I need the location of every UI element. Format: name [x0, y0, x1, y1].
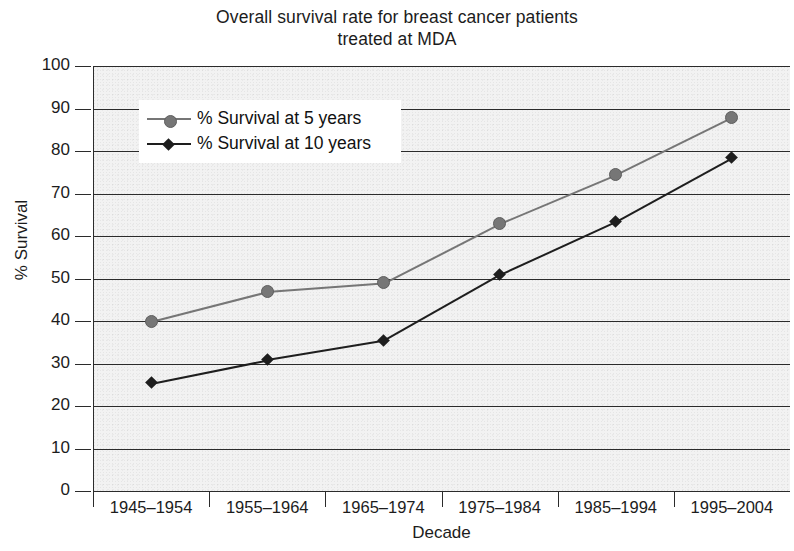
y-axis-tick-label: 0	[12, 483, 70, 497]
legend-swatch-5-year	[147, 112, 191, 126]
series-line-segment	[383, 223, 500, 284]
data-point-circle-marker	[609, 168, 622, 181]
y-axis-tick	[75, 194, 91, 195]
legend-label-5-year: % Survival at 5 years	[197, 108, 361, 129]
y-axis-tick-label: 30	[12, 356, 70, 370]
gridline	[93, 321, 790, 322]
gridline	[93, 406, 790, 407]
data-point-circle-marker	[725, 111, 738, 124]
y-axis-tick-label: 20	[12, 398, 70, 412]
legend-item-10-year: % Survival at 10 years	[147, 131, 393, 156]
y-axis-tick	[75, 449, 91, 450]
x-axis-category-label: 1975–1984	[442, 498, 558, 517]
y-axis-tick	[75, 109, 91, 110]
gridline	[93, 194, 790, 195]
x-axis-category-label: 1985–1994	[558, 498, 674, 517]
diamond-marker-icon	[162, 138, 175, 151]
legend-label-10-year: % Survival at 10 years	[197, 133, 371, 154]
x-axis-category-label: 1995–2004	[674, 498, 790, 517]
gridline	[93, 364, 790, 365]
y-axis-tick	[75, 151, 91, 152]
gridline	[93, 449, 790, 450]
gridline	[93, 66, 790, 67]
legend-swatch-10-year	[147, 137, 191, 151]
x-axis-category-label: 1955–1964	[209, 498, 325, 517]
y-axis-tick-label: 70	[12, 186, 70, 200]
chart-legend: % Survival at 5 years % Survival at 10 y…	[139, 100, 401, 163]
data-point-circle-marker	[493, 217, 506, 230]
x-axis-label: Decade	[93, 523, 790, 543]
legend-item-5-year: % Survival at 5 years	[147, 106, 393, 131]
chart-title: Overall survival rate for breast cancer …	[0, 6, 794, 50]
y-axis-tick-label: 10	[12, 441, 70, 455]
x-axis-category-label: 1965–1974	[325, 498, 441, 517]
x-axis-category-label: 1945–1954	[93, 498, 209, 517]
y-axis-tick-label: 40	[12, 313, 70, 327]
y-axis-tick-label: 80	[12, 143, 70, 157]
chart-figure: Overall survival rate for breast cancer …	[0, 0, 794, 551]
series-line-segment	[267, 340, 383, 361]
data-point-circle-marker	[377, 276, 390, 289]
data-point-diamond-marker	[609, 215, 622, 228]
series-line-segment	[500, 174, 617, 225]
y-axis-tick-label: 100	[12, 58, 70, 72]
y-axis-tick	[75, 279, 91, 280]
gridline	[93, 279, 790, 280]
y-axis-tick-label: 90	[12, 101, 70, 115]
y-axis-tick-label: 60	[12, 228, 70, 242]
data-point-diamond-marker	[145, 376, 158, 389]
series-line-segment	[151, 291, 268, 323]
y-axis-tick	[75, 66, 91, 67]
y-axis-tick	[75, 491, 91, 492]
data-point-circle-marker	[261, 285, 274, 298]
series-line-segment	[383, 274, 500, 342]
series-line-segment	[500, 221, 617, 276]
y-axis-tick	[75, 364, 91, 365]
y-axis-line	[93, 66, 94, 492]
y-axis-tick-label: 50	[12, 271, 70, 285]
gridline	[93, 236, 790, 237]
circle-marker-icon	[164, 115, 177, 128]
chart-title-line-1: Overall survival rate for breast cancer …	[216, 7, 578, 27]
y-axis-tick	[75, 406, 91, 407]
y-axis-tick	[75, 321, 91, 322]
chart-title-line-2: treated at MDA	[0, 28, 794, 50]
data-point-circle-marker	[145, 315, 158, 328]
y-axis-tick	[75, 236, 91, 237]
series-line-segment	[267, 283, 383, 293]
data-point-diamond-marker	[377, 334, 390, 347]
